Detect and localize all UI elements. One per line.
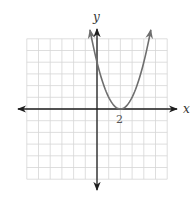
parabola-graph: x y 2 [0, 0, 195, 197]
y-axis-label: y [92, 10, 100, 24]
x-axis-label: x [183, 102, 190, 116]
x-tick-label-2: 2 [116, 113, 123, 126]
